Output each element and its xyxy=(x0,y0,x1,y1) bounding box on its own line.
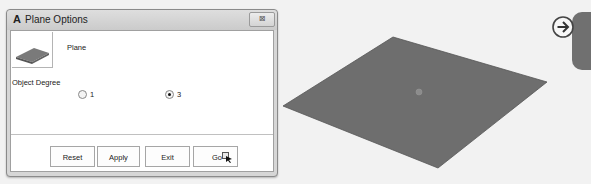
plane-thumbnail-icon xyxy=(12,32,52,67)
radio-button-unchecked[interactable] xyxy=(78,90,87,99)
degree-option-label: 3 xyxy=(177,90,181,99)
app-logo-icon: A xyxy=(13,13,21,25)
arrow-right-circle-icon[interactable] xyxy=(552,16,574,38)
close-icon: ⊠ xyxy=(259,14,266,23)
dialog-titlebar[interactable]: A Plane Options ⊠ xyxy=(7,10,277,30)
go-label: Go xyxy=(212,153,222,162)
pivot-point-icon xyxy=(416,89,422,95)
object-type-label: Plane xyxy=(67,43,86,52)
reset-button[interactable]: Reset xyxy=(50,146,95,167)
mouse-cursor-icon xyxy=(222,152,233,163)
degree-radio-3[interactable]: 3 xyxy=(165,90,181,99)
radio-button-checked[interactable] xyxy=(165,90,174,99)
degree-option-label: 1 xyxy=(90,90,94,99)
3d-viewport[interactable] xyxy=(280,0,591,184)
side-panel-tab[interactable] xyxy=(572,12,591,70)
object-degree-label: Object Degree xyxy=(12,78,60,87)
dialog-title: Plane Options xyxy=(25,14,88,25)
exit-button[interactable]: Exit xyxy=(145,146,190,167)
go-button[interactable]: Go xyxy=(193,146,238,167)
dialog-body: Plane Object Degree 1 3 Reset Apply Exit… xyxy=(10,30,274,172)
close-button[interactable]: ⊠ xyxy=(249,12,275,27)
apply-button[interactable]: Apply xyxy=(97,146,140,167)
plane-thumbnail xyxy=(12,32,53,68)
plane-object[interactable] xyxy=(283,37,547,168)
divider xyxy=(11,134,273,135)
degree-radio-1[interactable]: 1 xyxy=(78,90,94,99)
plane-options-dialog: A Plane Options ⊠ Plane Object Degree 1 … xyxy=(6,9,278,177)
